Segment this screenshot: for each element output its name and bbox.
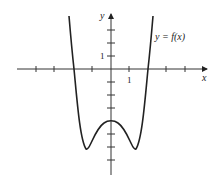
x-tick-label-1: 1 (127, 75, 132, 85)
y-tick-label-1: 1 (100, 51, 105, 61)
x-axis-label: x (201, 72, 207, 83)
curve-label: y = f(x) (154, 31, 186, 43)
function-graph: y x 1 1 y = f(x) (0, 0, 213, 190)
y-axis-label: y (99, 10, 105, 21)
